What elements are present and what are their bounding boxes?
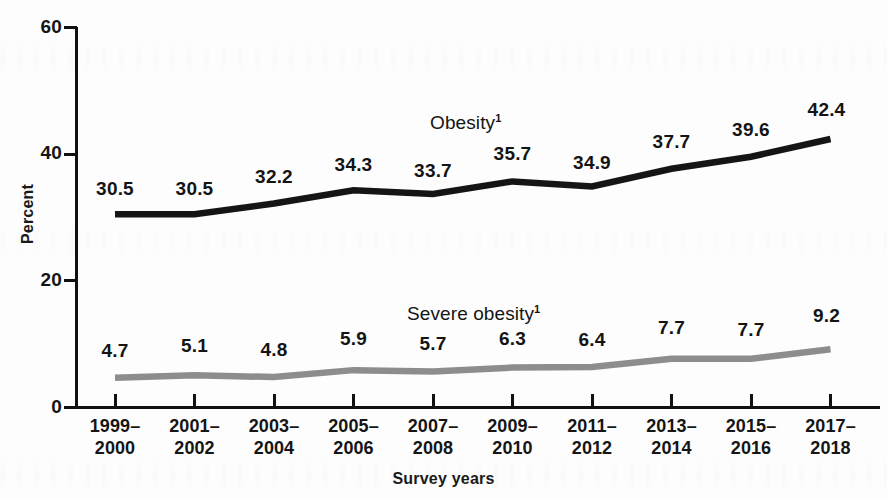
series-label-severe-obesity-footnote: 1	[534, 303, 540, 315]
data-label: 9.2	[792, 305, 862, 327]
data-label: 7.7	[637, 317, 707, 339]
series-label-obesity-text: Obesity	[430, 112, 495, 133]
data-label: 6.4	[557, 329, 627, 351]
data-label: 4.7	[80, 340, 150, 362]
plot-area: 0204060 1999–20002001–20022003–20042005–…	[0, 0, 887, 500]
series-label-obesity-footnote: 1	[495, 112, 501, 124]
y-axis-title: Percent	[19, 164, 37, 264]
data-label: 6.3	[478, 328, 548, 350]
data-label: 30.5	[160, 178, 230, 200]
data-label: 34.3	[319, 154, 389, 176]
chart-figure: 0204060 1999–20002001–20022003–20042005–…	[0, 0, 887, 500]
data-label: 34.9	[557, 152, 627, 174]
data-label: 30.5	[80, 178, 150, 200]
x-axis-title: Survey years	[0, 470, 887, 488]
data-label: 4.8	[239, 339, 309, 361]
series-label-obesity: Obesity1	[430, 112, 501, 134]
data-label: 39.6	[716, 119, 786, 141]
data-label: 5.1	[160, 335, 230, 357]
data-label: 42.4	[792, 99, 862, 121]
data-label: 33.7	[398, 160, 468, 182]
data-label: 35.7	[478, 143, 548, 165]
data-label: 5.9	[319, 328, 389, 350]
series-label-severe-obesity: Severe obesity1	[407, 303, 540, 325]
data-label: 37.7	[637, 131, 707, 153]
data-label: 7.7	[716, 319, 786, 341]
series-label-severe-obesity-text: Severe obesity	[407, 303, 534, 324]
data-label: 32.2	[239, 166, 309, 188]
series-lines	[0, 0, 887, 500]
data-label: 5.7	[398, 333, 468, 355]
series-line-obesity	[115, 139, 831, 214]
